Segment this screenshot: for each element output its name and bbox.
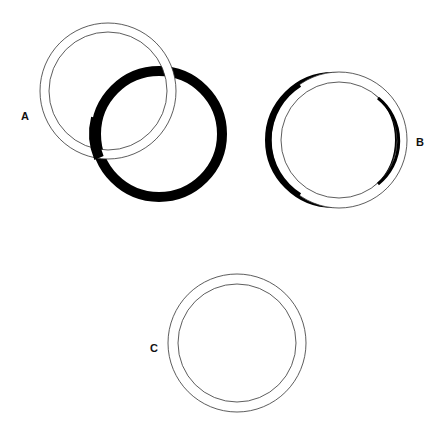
label-a: A bbox=[21, 110, 29, 122]
rings-diagram bbox=[0, 0, 443, 429]
label-c: C bbox=[150, 342, 158, 354]
black-ring-a-over bbox=[94, 118, 99, 158]
white-ring-c-outer bbox=[168, 274, 306, 412]
white-ring-c-inner bbox=[178, 284, 296, 402]
label-b: B bbox=[416, 136, 424, 148]
figure-c bbox=[168, 274, 306, 412]
figure-b bbox=[268, 72, 407, 208]
figure-a bbox=[40, 23, 222, 197]
